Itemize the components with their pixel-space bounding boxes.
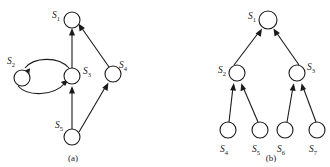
panel-b: S1 S2 S3 S4 S5 S6 S7 (b)	[218, 11, 325, 163]
figure-container: S1 S2 S3 S4 S5 (a)	[0, 0, 330, 167]
node-b-s3[interactable]	[289, 65, 305, 81]
edge-a-s4-to-s1	[79, 24, 110, 68]
edge-b-s4-to-s2	[229, 83, 236, 122]
node-a-s5[interactable]	[64, 129, 80, 145]
node-b-s6[interactable]	[277, 122, 293, 138]
node-b-s7[interactable]	[309, 122, 325, 138]
node-b-s5[interactable]	[252, 122, 268, 138]
node-b-s2[interactable]	[229, 65, 245, 81]
node-label-b-s7: S7	[309, 144, 318, 156]
node-label-a-s3: S3	[83, 66, 91, 78]
node-a-s1[interactable]	[64, 12, 80, 28]
node-label-a-s2: S2	[7, 56, 15, 68]
node-label-b-s1: S1	[248, 11, 256, 23]
edge-a-s3-to-s1	[69, 28, 75, 68]
node-label-b-s2: S2	[218, 65, 226, 77]
panel-a: S1 S2 S3 S4 S5 (a)	[7, 10, 128, 163]
node-label-b-s5: S5	[252, 144, 260, 156]
panel-caption-b: (b)	[266, 153, 277, 163]
edge-b-s6-to-s3	[287, 83, 296, 122]
edge-b-s2-to-s1	[234, 29, 262, 66]
edge-b-s7-to-s3	[300, 83, 316, 122]
node-label-b-s3: S3	[307, 62, 315, 74]
node-label-b-s4: S4	[220, 144, 229, 156]
node-a-s3[interactable]	[64, 68, 80, 84]
node-b-s4[interactable]	[220, 122, 236, 138]
panel-caption-a: (a)	[68, 153, 78, 163]
node-label-a-s4: S4	[119, 60, 128, 72]
node-label-a-s1: S1	[52, 10, 60, 22]
graph-diagram-svg: S1 S2 S3 S4 S5 (a)	[0, 0, 330, 167]
node-label-b-s6: S6	[277, 144, 286, 156]
node-a-s2[interactable]	[14, 70, 30, 86]
edge-a-s5-to-s3	[69, 86, 75, 129]
node-b-s1[interactable]	[259, 11, 277, 29]
edge-b-s3-to-s1	[274, 29, 300, 66]
edge-b-s5-to-s2	[241, 83, 259, 122]
node-label-a-s5: S5	[55, 120, 63, 132]
edge-a-s5-to-s4	[79, 83, 109, 133]
edge-a-s3-to-s2-curved	[23, 59, 70, 74]
